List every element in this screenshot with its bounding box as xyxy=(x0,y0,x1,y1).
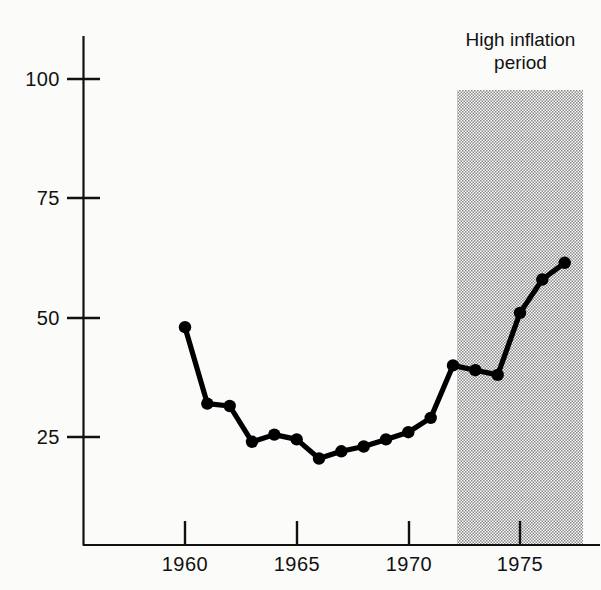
data-point-1973 xyxy=(469,364,481,376)
y-axis-tick-label-25: 25 xyxy=(8,426,60,449)
data-point-1970 xyxy=(402,426,414,438)
y-axis-tick-label-100: 100 xyxy=(8,68,60,91)
data-point-1964 xyxy=(268,428,280,440)
data-point-1962 xyxy=(224,400,236,412)
data-point-1976 xyxy=(536,273,548,285)
y-axis-tick-label-75: 75 xyxy=(8,187,60,210)
data-point-1971 xyxy=(425,412,437,424)
data-point-1967 xyxy=(335,445,347,457)
line-chart-plot xyxy=(0,0,601,590)
data-point-1966 xyxy=(313,452,325,464)
data-point-1960 xyxy=(179,321,191,333)
x-axis-tick-label-1970: 1970 xyxy=(369,553,449,576)
y-axis-tick-label-50: 50 xyxy=(8,307,60,330)
data-point-1977 xyxy=(559,257,571,269)
data-point-1974 xyxy=(492,369,504,381)
data-point-1972 xyxy=(447,359,459,371)
data-point-1969 xyxy=(380,433,392,445)
x-axis-tick-label-1965: 1965 xyxy=(257,553,337,576)
chart-figure: 100 75 50 25 1960 1965 1970 1975 High in… xyxy=(0,0,601,590)
annotation-line-1: High inflation xyxy=(443,28,598,51)
data-point-1961 xyxy=(201,397,213,409)
data-point-1975 xyxy=(514,307,526,319)
x-axis-tick-label-1975: 1975 xyxy=(480,553,560,576)
x-axis-tick-label-1960: 1960 xyxy=(145,553,225,576)
data-point-1965 xyxy=(291,433,303,445)
annotation-line-2: period xyxy=(443,51,598,74)
high-inflation-annotation-label: High inflation period xyxy=(443,28,598,74)
data-point-1968 xyxy=(358,440,370,452)
data-point-1963 xyxy=(246,436,258,448)
